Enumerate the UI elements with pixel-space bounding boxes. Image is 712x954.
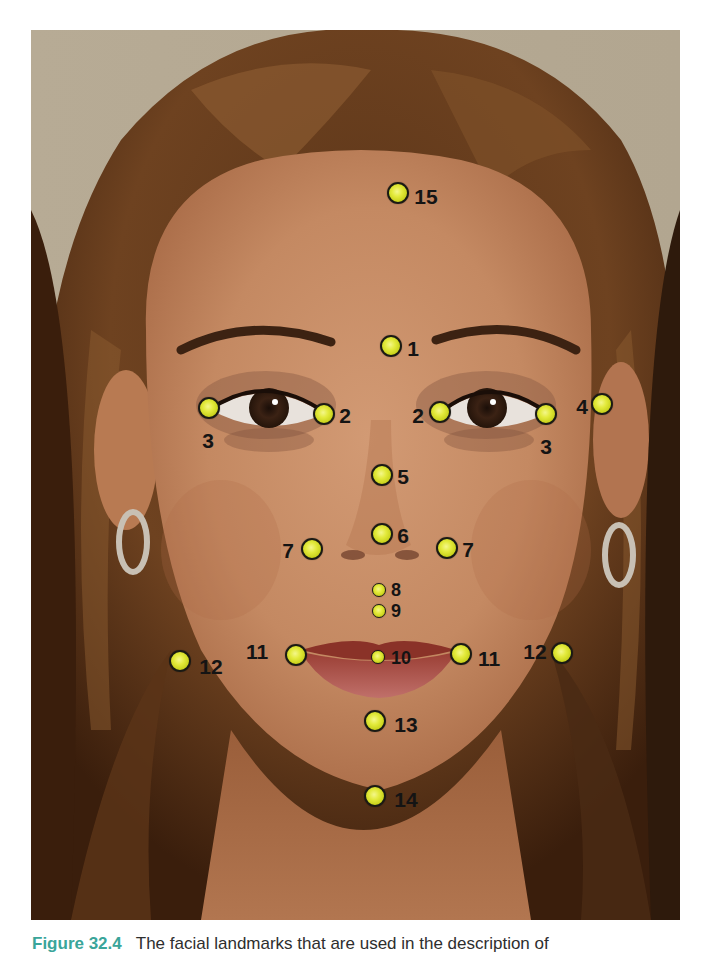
landmark-label-3-left: 3: [202, 430, 214, 451]
figure-caption: Figure 32.4The facial landmarks that are…: [32, 934, 692, 954]
landmark-marker-15: [387, 182, 409, 204]
landmark-label-7-left: 7: [282, 540, 294, 561]
landmark-marker-7-left: [301, 538, 323, 560]
landmark-label-2-right: 2: [412, 405, 424, 426]
landmark-marker-11-left: [285, 644, 307, 666]
landmark-marker-12-right: [551, 642, 573, 664]
landmark-marker-9: [372, 604, 386, 618]
landmark-label-2-left: 2: [339, 405, 351, 426]
landmark-label-10: 10: [391, 649, 411, 667]
landmark-marker-10: [371, 650, 385, 664]
landmark-label-6: 6: [397, 525, 409, 546]
landmark-label-12-left: 12: [199, 656, 222, 677]
landmark-label-5: 5: [397, 466, 409, 487]
landmark-label-4: 4: [576, 396, 588, 417]
caption-text: The facial landmarks that are used in th…: [136, 934, 549, 953]
landmark-marker-14: [364, 785, 386, 807]
landmark-marker-6: [371, 523, 393, 545]
landmark-label-8: 8: [391, 581, 401, 599]
landmark-marker-3-right: [535, 403, 557, 425]
landmark-label-9: 9: [391, 602, 401, 620]
face-photograph: [31, 30, 680, 920]
landmark-marker-13: [364, 710, 386, 732]
landmark-marker-7-right: [436, 537, 458, 559]
landmark-marker-8: [372, 583, 386, 597]
face-illustration: [31, 30, 680, 920]
figure-number: Figure 32.4: [32, 934, 122, 953]
landmark-label-12-right: 12: [523, 641, 546, 662]
landmark-label-11-left: 11: [246, 641, 268, 662]
landmark-marker-12-left: [169, 650, 191, 672]
landmark-label-3-right: 3: [540, 436, 552, 457]
landmark-marker-2-right: [429, 401, 451, 423]
landmark-label-7-right: 7: [462, 539, 474, 560]
landmark-label-11-right: 11: [478, 648, 500, 669]
landmark-label-1: 1: [407, 338, 419, 359]
landmark-label-15: 15: [414, 186, 437, 207]
landmark-marker-11-right: [450, 643, 472, 665]
landmark-marker-3-left: [198, 397, 220, 419]
landmark-marker-2-left: [313, 403, 335, 425]
landmark-marker-1: [380, 335, 402, 357]
landmark-label-13: 13: [394, 714, 417, 735]
landmark-marker-5: [371, 464, 393, 486]
landmark-marker-4: [591, 393, 613, 415]
landmark-label-14: 14: [394, 789, 417, 810]
